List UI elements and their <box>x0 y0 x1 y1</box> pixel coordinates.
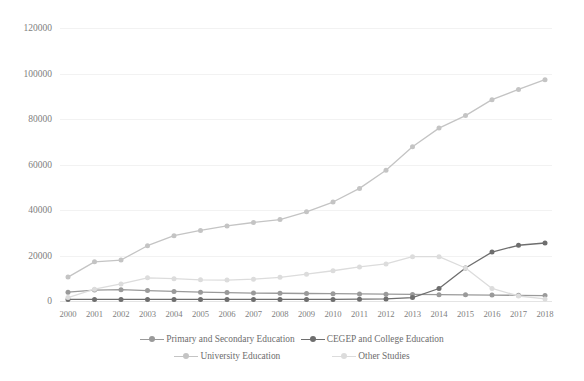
legend-marker-icon <box>174 351 198 361</box>
data-point <box>516 87 521 92</box>
data-point <box>92 287 97 292</box>
data-point <box>357 297 362 302</box>
data-point <box>278 297 283 302</box>
data-point <box>437 126 442 131</box>
legend-row: Primary and Secondary EducationCEGEP and… <box>0 330 584 348</box>
data-point <box>304 297 309 302</box>
data-point <box>357 291 362 296</box>
x-axis-tick-label: 2017 <box>510 308 527 320</box>
data-point <box>543 240 548 245</box>
series-line <box>68 243 545 299</box>
data-point <box>145 288 150 293</box>
x-axis-tick-label: 2003 <box>139 308 156 320</box>
data-point <box>490 293 495 298</box>
data-point <box>384 168 389 173</box>
x-axis-tick-label: 2011 <box>351 308 368 320</box>
data-point <box>410 295 415 300</box>
x-axis-tick-label: 2007 <box>245 308 262 320</box>
legend-marker-icon <box>332 351 356 361</box>
data-point <box>198 290 203 295</box>
data-point <box>384 296 389 301</box>
data-point <box>357 186 362 191</box>
data-point <box>225 223 230 228</box>
x-axis-tick-label: 2000 <box>59 308 76 320</box>
data-point <box>172 233 177 238</box>
data-point <box>251 297 256 302</box>
legend-marker-icon <box>301 334 325 344</box>
data-point <box>357 264 362 269</box>
data-point <box>278 291 283 296</box>
x-axis-tick-label: 2015 <box>457 308 474 320</box>
data-point <box>384 292 389 297</box>
data-point <box>543 296 548 301</box>
data-point <box>331 297 336 302</box>
data-point <box>66 290 71 295</box>
data-point <box>66 295 71 300</box>
legend-label: CEGEP and College Education <box>327 333 444 345</box>
data-point <box>304 209 309 214</box>
x-axis-tick-label: 2018 <box>536 308 553 320</box>
line-chart: 020000400006000080000100000120000 200020… <box>0 0 584 381</box>
data-point <box>490 286 495 291</box>
data-point <box>516 243 521 248</box>
data-point <box>172 297 177 302</box>
data-point <box>437 286 442 291</box>
data-point <box>278 275 283 280</box>
data-point <box>410 254 415 259</box>
series-line <box>68 80 545 277</box>
data-point <box>225 278 230 283</box>
data-point <box>490 97 495 102</box>
data-point <box>304 291 309 296</box>
legend-item[interactable]: Primary and Secondary Education <box>140 333 294 345</box>
legend-row: University EducationOther Studies <box>0 347 584 365</box>
data-point <box>251 291 256 296</box>
series-3 <box>66 77 548 279</box>
legend-item[interactable]: University Education <box>174 350 280 362</box>
data-point <box>463 113 468 118</box>
data-point <box>66 275 71 280</box>
data-point <box>119 258 124 263</box>
data-point <box>92 259 97 264</box>
data-point <box>198 228 203 233</box>
data-point <box>198 277 203 282</box>
x-axis-tick-label: 2014 <box>430 308 447 320</box>
data-point <box>331 291 336 296</box>
data-point <box>437 254 442 259</box>
data-point <box>384 261 389 266</box>
data-point <box>463 266 468 271</box>
data-point <box>251 277 256 282</box>
legend-item[interactable]: CEGEP and College Education <box>301 333 444 345</box>
data-point <box>172 289 177 294</box>
data-point <box>119 281 124 286</box>
data-point <box>490 250 495 255</box>
series-1 <box>66 287 548 298</box>
data-point <box>92 297 97 302</box>
legend-label: Other Studies <box>358 350 409 362</box>
legend-label: Primary and Secondary Education <box>166 333 294 345</box>
chart-series-svg <box>0 0 584 381</box>
x-axis-labels: 2000200120022003200420052006200720082009… <box>60 308 552 322</box>
data-point <box>543 77 548 82</box>
x-axis-tick-label: 2008 <box>271 308 288 320</box>
x-axis-tick-label: 2009 <box>298 308 315 320</box>
x-axis-tick-label: 2013 <box>404 308 421 320</box>
data-point <box>119 297 124 302</box>
data-point <box>145 275 150 280</box>
data-point <box>225 297 230 302</box>
x-axis-tick-label: 2006 <box>218 308 235 320</box>
data-point <box>119 287 124 292</box>
data-point <box>198 297 203 302</box>
data-point <box>251 220 256 225</box>
data-point <box>410 144 415 149</box>
data-point <box>304 272 309 277</box>
legend-item[interactable]: Other Studies <box>332 350 409 362</box>
data-point <box>145 297 150 302</box>
x-axis-tick-label: 2005 <box>192 308 209 320</box>
data-point <box>278 217 283 222</box>
data-point <box>516 294 521 299</box>
x-axis-tick-label: 2012 <box>377 308 394 320</box>
x-axis-tick-label: 2004 <box>165 308 182 320</box>
legend-marker-icon <box>140 334 164 344</box>
data-point <box>145 243 150 248</box>
x-axis-tick-label: 2002 <box>112 308 129 320</box>
